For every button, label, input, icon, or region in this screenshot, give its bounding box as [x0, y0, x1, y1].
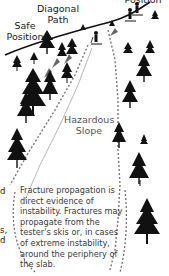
hazardous-slope-label: Hazardous Slope — [64, 114, 114, 136]
tree-icon — [129, 152, 149, 184]
tree-icon — [140, 180, 141, 186]
tree-icon — [145, 40, 155, 53]
edge-fragment-3: d — [0, 235, 5, 245]
tree-icon — [7, 128, 27, 168]
skier-icon-1 — [91, 31, 102, 44]
tree-icon — [151, 10, 159, 19]
safe-position-label-line2: Position — [4, 31, 46, 42]
tree-icon — [42, 70, 58, 100]
arrow-icons — [44, 28, 118, 78]
tree-icon — [140, 134, 148, 144]
avalanche-diagram: Position Diagonal Path Safe Position Haz… — [0, 0, 169, 276]
hazardous-slope-label-line2: Slope — [64, 125, 114, 136]
tree-icon — [112, 122, 126, 148]
tree-icon — [134, 198, 160, 244]
tree-icon — [122, 80, 138, 108]
edge-fragment-1: d — [0, 186, 5, 196]
top-right-label: Position — [118, 0, 168, 5]
tree-icon — [57, 42, 67, 56]
edge-fragment-2: s, — [0, 225, 7, 235]
tree-icon — [80, 24, 86, 30]
arrow-icon — [52, 58, 60, 68]
tree-icon — [136, 54, 152, 82]
hazardous-slope-label-line1: Hazardous — [64, 114, 114, 125]
skier-icons — [91, 2, 143, 44]
tree-icon — [123, 42, 133, 53]
tree-icon — [61, 62, 73, 83]
safe-position-label-line1: Safe — [4, 20, 46, 31]
safe-position-label: Safe Position — [4, 20, 46, 42]
tree-icon — [30, 52, 38, 64]
tree-icon — [66, 38, 78, 54]
diagonal-path-label-line1: Diagonal — [36, 3, 80, 14]
arrow-icon — [110, 28, 118, 36]
fracture-caption: Fracture propagation is direct evidence … — [20, 185, 124, 270]
tree-icon — [12, 55, 22, 71]
